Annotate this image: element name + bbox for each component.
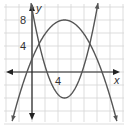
y-tick-8: 8 [20,14,26,26]
curves [11,3,117,121]
coordinate-plane: y x 8 4 4 [0,0,128,126]
x-tick-4: 4 [55,75,61,87]
graph: y x 8 4 4 [0,0,128,126]
y-axis-down-arrow-icon [29,113,35,120]
x-axis-left-arrow-icon [6,69,13,75]
y-tick-4: 4 [20,40,26,52]
y-axis-label: y [35,2,43,14]
downward-parabola [12,20,117,121]
upward-parabola [31,3,98,98]
x-axis-label: x [113,74,120,86]
